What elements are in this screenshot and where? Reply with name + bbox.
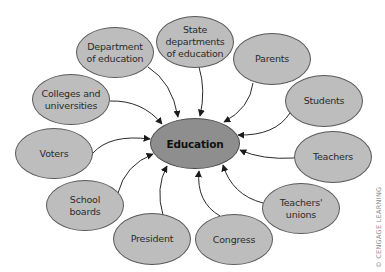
arrow-colleges bbox=[110, 101, 162, 124]
node-teachers: Teachers bbox=[294, 131, 372, 183]
node-congress: Congress bbox=[195, 214, 273, 265]
arrow-president bbox=[160, 166, 167, 215]
arrow-parents bbox=[224, 83, 253, 122]
node-parents: Parents bbox=[233, 33, 311, 85]
arrow-students bbox=[238, 113, 290, 135]
node-teachers-unions: Teachers' unions bbox=[262, 183, 340, 234]
copyright-watermark: © CENGAGE LEARNING bbox=[375, 187, 383, 268]
center-node-education: Education bbox=[150, 118, 240, 169]
node-colleges-and-universities: Colleges and universities bbox=[32, 74, 110, 125]
diagram-canvas: Education Department of education State … bbox=[0, 0, 385, 272]
node-department-of-education: Department of education bbox=[76, 27, 154, 78]
arrow-unions bbox=[223, 165, 263, 203]
node-president: President bbox=[113, 213, 191, 265]
arrow-voters bbox=[93, 138, 150, 153]
node-voters: Voters bbox=[15, 128, 93, 179]
arrow-teachers bbox=[240, 150, 294, 158]
arrow-congress bbox=[199, 171, 220, 216]
arrow-state bbox=[199, 67, 203, 116]
node-school-boards: School boards bbox=[46, 180, 124, 231]
node-students: Students bbox=[285, 75, 363, 127]
node-state-departments: State departments of education bbox=[156, 16, 234, 68]
arrow-boards bbox=[118, 154, 153, 193]
arrow-dept bbox=[148, 67, 178, 117]
